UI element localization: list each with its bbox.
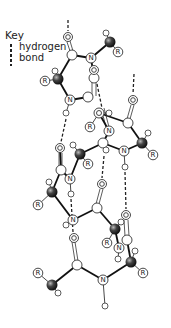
svg-text:N: N [100,276,105,284]
alpha-carbon-atom [105,37,116,48]
svg-text:R: R [86,160,91,168]
beta-sheet-diagram: N N N N N N N N R R R R R R R R R [0,0,171,328]
svg-text:N: N [121,147,126,155]
alpha-carbon-atom [137,138,148,149]
svg-text:N: N [67,96,72,104]
alpha-carbon-atom [47,280,58,291]
svg-text:N: N [67,175,72,183]
alpha-carbon-atom [126,257,137,268]
svg-text:R: R [36,201,41,209]
svg-text:R: R [36,269,41,277]
svg-text:N: N [116,244,121,252]
svg-text:R: R [105,239,110,247]
svg-text:N: N [106,127,111,135]
carbonyl-carbons [56,50,133,270]
svg-text:N: N [70,216,75,224]
svg-text:R: R [141,269,146,277]
svg-text:N: N [88,54,93,62]
svg-text:R: R [151,151,156,159]
svg-text:R: R [88,123,93,131]
svg-text:R: R [43,77,48,85]
alpha-carbon-atom [110,224,121,235]
alpha-carbon-atom [75,149,86,160]
alpha-carbon-atom [53,74,64,85]
alpha-carbon-atom [47,187,58,198]
svg-text:R: R [116,48,121,56]
